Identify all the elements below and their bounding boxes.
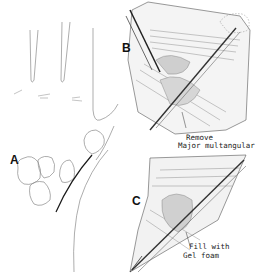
- panel-b-exposure: [126, 2, 250, 134]
- panel-label-a: A: [10, 154, 19, 166]
- surgical-illustration: [0, 0, 264, 279]
- annotation-fill-line1: Fill with: [189, 243, 230, 251]
- panel-label-c: C: [132, 195, 141, 207]
- panel-label-b: B: [122, 42, 131, 54]
- annotation-fill-line2: Gel foam: [183, 252, 219, 260]
- panel-a-hand-outline: [14, 22, 118, 272]
- annotation-remove-line2: Major multangular: [178, 142, 255, 150]
